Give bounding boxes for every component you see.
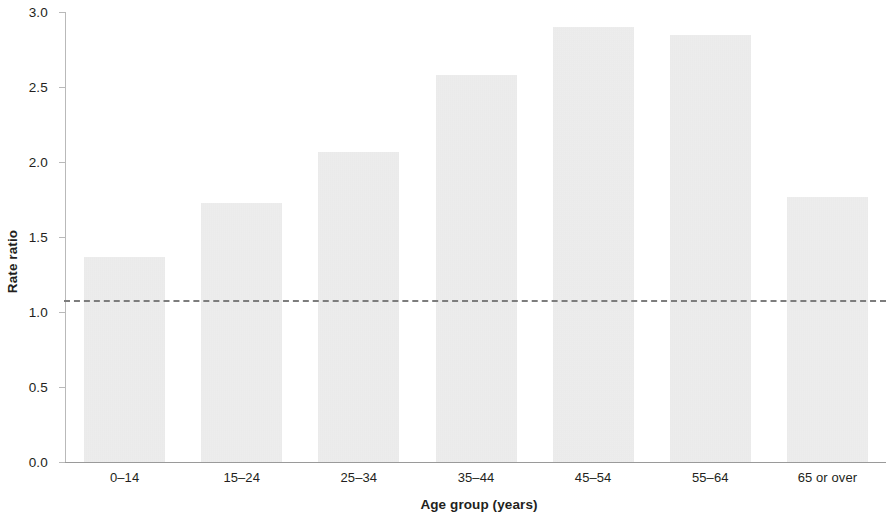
bar [201, 203, 282, 463]
y-tick-mark: 1.0 [59, 312, 65, 313]
bar [436, 75, 517, 462]
y-tick-mark: 2.0 [59, 162, 65, 163]
x-axis-title: Age group (years) [66, 497, 892, 512]
y-tick-mark: 3.0 [59, 12, 65, 13]
reference-line [64, 300, 886, 302]
y-axis-title: Rate ratio [0, 0, 24, 523]
chart-figure: Rate ratio 0.00.51.01.52.02.53.0 0–1415–… [0, 0, 892, 523]
bar [670, 35, 751, 463]
y-tick-label: 0.5 [29, 380, 48, 395]
y-tick-label: 2.5 [29, 80, 48, 95]
x-tick-label: 0–14 [66, 470, 183, 485]
x-tick-label: 65 or over [769, 470, 886, 485]
y-tick-mark: 2.5 [59, 87, 65, 88]
y-tick-mark: 1.5 [59, 237, 65, 238]
y-tick-mark: 0.5 [59, 387, 65, 388]
plot-area: 0.00.51.01.52.02.53.0 0–1415–2425–3435–4… [66, 12, 886, 462]
y-tick-label: 1.5 [29, 230, 48, 245]
x-axis-line [65, 462, 886, 463]
bar [318, 152, 399, 463]
x-tick-label: 15–24 [183, 470, 300, 485]
x-tick-label: 25–34 [300, 470, 417, 485]
y-tick-label: 0.0 [29, 455, 48, 470]
y-tick-label: 1.0 [29, 305, 48, 320]
y-tick-label: 3.0 [29, 5, 48, 20]
x-tick-label: 55–64 [652, 470, 769, 485]
y-axis-line [65, 12, 66, 463]
y-tick-label: 2.0 [29, 155, 48, 170]
bar [553, 27, 634, 462]
bar [787, 197, 868, 463]
x-tick-label: 35–44 [417, 470, 534, 485]
bar [84, 257, 165, 463]
y-tick-mark: 0.0 [59, 462, 65, 463]
x-tick-label: 45–54 [535, 470, 652, 485]
